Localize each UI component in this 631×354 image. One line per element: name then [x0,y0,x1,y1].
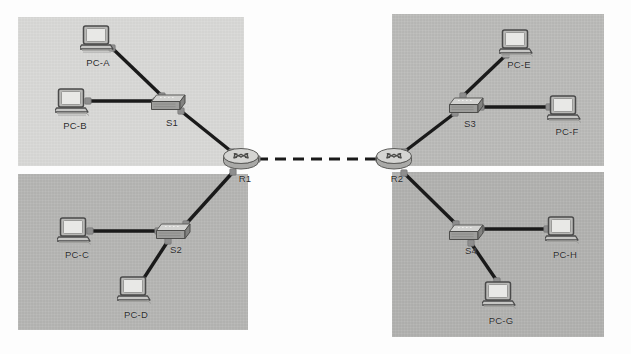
node-pcg[interactable] [482,281,518,312]
link-line [186,172,233,224]
node-s1[interactable] [149,92,189,115]
pc-icon [80,25,116,56]
node-pch[interactable] [545,216,581,247]
router-icon [375,147,413,173]
link-r1-r2[interactable] [254,156,382,162]
router-icon [222,147,260,173]
pc-icon [482,281,518,312]
node-pcc[interactable] [57,217,93,248]
switch-icon [447,222,487,245]
pc-icon [547,95,583,126]
network-topology-diagram: PC-A PC-B S1 PC-C [0,0,631,354]
node-r1[interactable] [222,147,260,173]
node-label-s4: S4 [465,245,477,256]
node-label-pcg: PC-G [489,315,514,326]
node-pcd[interactable] [117,276,153,307]
node-s3[interactable] [447,95,487,118]
link-pcc-s2[interactable] [87,228,161,234]
link-line [404,173,456,224]
node-label-pcf: PC-F [556,126,579,137]
link-line [181,111,232,152]
node-r2[interactable] [375,147,413,173]
switch-icon [149,92,189,115]
link-line [112,48,162,96]
pc-icon [55,88,91,119]
node-label-pce: PC-E [507,59,531,70]
node-label-pcb: PC-B [63,120,87,131]
node-label-r1: R1 [239,173,252,184]
pc-icon [57,217,93,248]
switch-icon [154,221,194,244]
node-label-pch: PC-H [553,249,577,260]
link-line [463,55,506,96]
node-label-pca: PC-A [86,57,110,68]
link-r2-s4[interactable] [401,170,459,227]
node-label-s2: S2 [170,244,182,255]
switch-icon [447,95,487,118]
node-label-pcd: PC-D [124,309,148,320]
node-s4[interactable] [447,222,487,245]
node-pce[interactable] [499,29,535,60]
node-pca[interactable] [80,25,116,56]
pc-icon [499,29,535,60]
pc-icon [545,216,581,247]
link-s4-pch[interactable] [478,226,550,232]
link-s3-pcf[interactable] [478,104,552,110]
node-label-r2: R2 [391,173,404,184]
node-label-s3: S3 [464,118,476,129]
node-label-pcc: PC-C [65,249,89,260]
node-label-s1: S1 [166,117,178,128]
link-r1-s2[interactable] [183,169,236,227]
node-pcf[interactable] [547,95,583,126]
node-pcb[interactable] [55,88,91,119]
pc-icon [117,276,153,307]
node-s2[interactable] [154,221,194,244]
